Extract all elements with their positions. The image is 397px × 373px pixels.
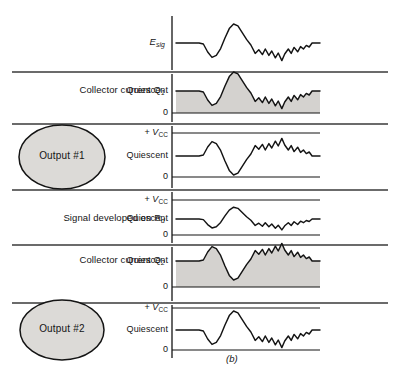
axis-label-vcc-output-1: + VCC: [144, 127, 168, 138]
waveform-trace-input-signal: [176, 24, 320, 61]
axis-label-zero-output-1: 0: [163, 171, 168, 181]
axis-label-quiescent-signal-developed-on-rd: Quiescent: [127, 213, 168, 223]
row-label-input-signal: Esig: [150, 36, 165, 48]
waveform-trace-output-2: [176, 311, 320, 348]
bubble-label-output-2: Output #2: [0, 323, 124, 334]
bubble-label-output-1: Output #1: [0, 150, 124, 161]
axis-label-zero-signal-developed-on-rd: 0: [163, 229, 168, 239]
waveform-trace-output-1: [176, 138, 320, 175]
axis-label-vcc-output-2: + VCC: [144, 302, 168, 313]
waveform-figure: Esig Collector current Q1 Signal develop…: [0, 0, 397, 373]
waveform-trace-signal-developed-on-rd: [176, 207, 320, 230]
axis-label-zero-output-2: 0: [163, 344, 168, 354]
figure-caption: (b): [226, 353, 238, 364]
axis-label-zero-collector-current-q1: 0: [163, 107, 168, 117]
axis-label-quiescent-output-1: Quiescent: [127, 150, 168, 160]
waveform-canvas: [0, 0, 397, 373]
axis-label-quiescent-collector-current-q2: Quiescent: [127, 255, 168, 265]
axis-label-vcc-signal-developed-on-rd: + VCC: [144, 194, 168, 205]
waveform-fill-collector-current-q1: [176, 72, 320, 113]
axis-label-zero-collector-current-q2: 0: [163, 281, 168, 291]
axis-label-quiescent-output-2: Quiescent: [127, 324, 168, 334]
waveform-fill-collector-current-q2: [176, 243, 320, 287]
axis-label-quiescent-collector-current-q1: Quiescent: [127, 85, 168, 95]
